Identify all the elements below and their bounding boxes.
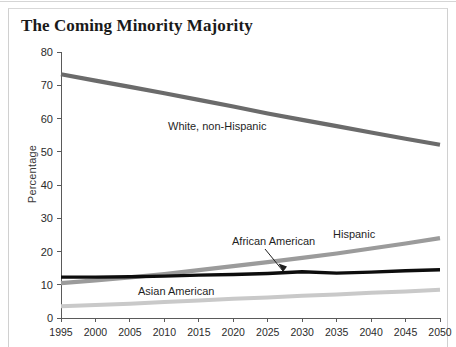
y-tick-label: 10 xyxy=(41,279,53,291)
x-tick-label: 2020 xyxy=(222,326,246,338)
y-tick-label: 70 xyxy=(41,79,53,91)
y-tick-label: 0 xyxy=(47,312,53,324)
y-tick-label: 20 xyxy=(41,246,53,258)
x-tick-label: 2025 xyxy=(256,326,280,338)
y-tick-label: 60 xyxy=(41,113,53,125)
chart-page: The Coming Minority Majority Percentage … xyxy=(0,0,456,347)
x-tick-label: 2030 xyxy=(291,326,315,338)
x-tick-label: 2000 xyxy=(84,326,108,338)
y-tick-label: 50 xyxy=(41,146,53,158)
x-tick-label: 2005 xyxy=(118,326,142,338)
x-tick-label: 2015 xyxy=(187,326,211,338)
x-tick-label: 2040 xyxy=(359,326,383,338)
x-axis-ticks: 1995200020052010201520202025203020352040… xyxy=(49,318,452,338)
x-tick-label: 1995 xyxy=(49,326,73,338)
y-axis-ticks: 01020304050607080 xyxy=(41,46,61,324)
x-tick-label: 2035 xyxy=(325,326,349,338)
x-tick-label: 2050 xyxy=(428,326,452,338)
x-tick-label: 2010 xyxy=(153,326,177,338)
series-label-white: White, non-Hispanic xyxy=(168,120,267,132)
series-inline-labels: White, non-HispanicHispanicAfrican Ameri… xyxy=(138,120,376,297)
series-label-asian-american: Asian American xyxy=(138,285,214,297)
series-line-white-non-hispanic xyxy=(61,74,440,144)
series-label-hispanic: Hispanic xyxy=(333,228,376,240)
series-label-african-american: African American xyxy=(232,235,315,247)
series-lines xyxy=(61,74,440,306)
y-tick-label: 40 xyxy=(41,179,53,191)
y-tick-label: 30 xyxy=(41,212,53,224)
x-tick-label: 2045 xyxy=(394,326,418,338)
series-line-african-american xyxy=(61,270,440,277)
y-tick-label: 80 xyxy=(41,46,53,58)
series-line-asian-american xyxy=(61,290,440,307)
line-chart: 01020304050607080 1995200020052010201520… xyxy=(0,0,456,347)
